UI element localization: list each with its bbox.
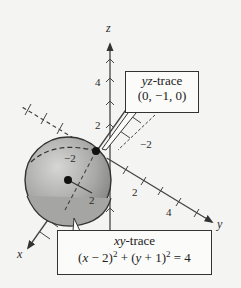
z-tick-4: 4 [95,76,101,88]
xy-trace-title: xy-trace [58,234,211,249]
y-axis-label: y [216,217,223,231]
z-axis-label: z [105,21,111,35]
radius-label: 2 [89,194,95,206]
yz-trace-point [92,147,100,155]
y-tick-4: 4 [166,206,172,218]
sphere [25,137,111,226]
x-neg-tick: −2 [64,152,76,164]
z-tick-2: 2 [95,119,101,131]
y-neg-tick: −2 [140,138,152,150]
x-axis-label: x [16,247,23,261]
yz-trace-title: yz-trace [126,74,198,89]
yz-trace-callout: yz-trace (0, −1, 0) [125,71,199,113]
center-point [64,176,72,184]
y-axis [110,160,212,222]
yz-trace-point-label: (0, −1, 0) [126,89,198,104]
xy-trace-equation: (x − 2)2 + (y + 1)2 = 4 [58,249,211,266]
y-tick-2: 2 [132,186,138,198]
xy-trace-callout: xy-trace (x − 2)2 + (y + 1)2 = 4 [57,230,212,275]
